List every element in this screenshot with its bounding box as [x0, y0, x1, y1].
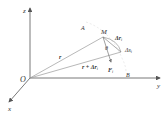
vector-r-label: r: [59, 54, 62, 60]
point-m-label: M: [100, 28, 108, 36]
origin-label: O: [20, 75, 26, 84]
vector-r-plus-delta: [30, 52, 121, 78]
point-a-label: A: [80, 25, 85, 31]
delta-s-label: Δsi: [124, 47, 132, 54]
x-axis-label: x: [7, 105, 12, 113]
delta-r-label: Δri: [114, 35, 122, 42]
point-b-label: B: [126, 72, 130, 78]
angle-label: θ: [105, 45, 108, 51]
y-axis-label: y: [156, 82, 161, 90]
vector-r-plus-label: r + Δri: [82, 64, 98, 71]
z-axis-label: z: [22, 7, 26, 15]
force-label: Fi: [108, 67, 113, 74]
vector-diagram: z y x O A M B r r + Δri Δri Δsi Fi θ: [0, 0, 167, 115]
vector-r: [30, 37, 103, 78]
